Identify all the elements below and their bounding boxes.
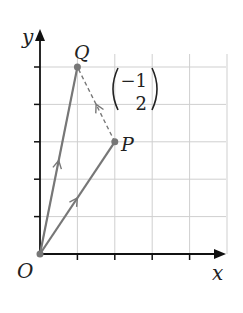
point-p	[111, 138, 118, 145]
y-axis-label: y	[21, 25, 34, 49]
origin-label: O	[17, 259, 33, 283]
vector-diagram: x y O Q P −1 2	[0, 0, 243, 313]
right-bracket	[152, 68, 157, 110]
point-label-q: Q	[74, 41, 90, 63]
column-vector: −1 2	[113, 68, 157, 114]
point-label-p: P	[120, 133, 135, 155]
point-o	[37, 251, 44, 258]
left-bracket	[113, 68, 118, 110]
vector-bottom-component: 2	[136, 93, 147, 114]
x-axis-arrow-icon	[214, 249, 226, 259]
x-axis-label: x	[212, 261, 223, 285]
y-axis-arrow-icon	[35, 29, 45, 41]
vector-top-component: −1	[120, 70, 147, 91]
vector-direction-arrow-icon	[96, 104, 104, 113]
point-q	[74, 64, 81, 71]
